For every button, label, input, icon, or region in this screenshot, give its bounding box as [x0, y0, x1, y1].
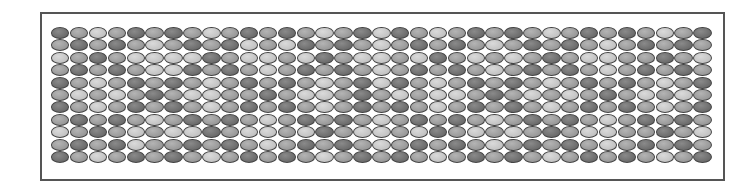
ellipse-cell: [259, 139, 277, 151]
ellipse-cell: [221, 126, 239, 138]
ellipse-cell: [127, 77, 145, 89]
ellipse-cell: [334, 77, 352, 89]
ellipse-cell: [674, 77, 692, 89]
ellipse-cell: [429, 64, 447, 76]
ellipse-cell: [599, 114, 617, 126]
ellipse-cell: [656, 27, 674, 39]
ellipse-cell: [580, 126, 598, 138]
ellipse-cell: [542, 114, 560, 126]
ellipse-cell: [504, 151, 522, 163]
ellipse-cell: [485, 151, 503, 163]
ellipse-cell: [145, 64, 163, 76]
ellipse-cell: [561, 64, 579, 76]
ellipse-cell: [51, 77, 69, 89]
ellipse-cell: [297, 101, 315, 113]
ellipse-cell: [145, 52, 163, 64]
ellipse-cell: [580, 27, 598, 39]
ellipse-cell: [674, 52, 692, 64]
ellipse-cell: [127, 151, 145, 163]
ellipse-cell: [164, 114, 182, 126]
ellipse-cell: [183, 114, 201, 126]
ellipse-cell: [240, 27, 258, 39]
ellipse-cell: [656, 139, 674, 151]
ellipse-cell: [448, 39, 466, 51]
ellipse-cell: [580, 64, 598, 76]
ellipse-cell: [353, 27, 371, 39]
ellipse-cell: [240, 39, 258, 51]
ellipse-cell: [334, 126, 352, 138]
ellipse-cell: [164, 27, 182, 39]
ellipse-cell: [202, 151, 220, 163]
ellipse-cell: [334, 27, 352, 39]
ellipse-cell: [259, 151, 277, 163]
ellipse-cell: [410, 77, 428, 89]
ellipse-cell: [297, 77, 315, 89]
ellipse-cell: [448, 64, 466, 76]
ellipse-cell: [259, 27, 277, 39]
ellipse-cell: [89, 27, 107, 39]
ellipse-cell: [599, 77, 617, 89]
ellipse-cell: [410, 101, 428, 113]
ellipse-cell: [542, 126, 560, 138]
ellipse-cell: [315, 151, 333, 163]
ellipse-cell: [353, 52, 371, 64]
ellipse-cell: [108, 52, 126, 64]
ellipse-cell: [637, 77, 655, 89]
ellipse-cell: [467, 77, 485, 89]
ellipse-cell: [580, 77, 598, 89]
ellipse-cell: [240, 89, 258, 101]
ellipse-cell: [297, 126, 315, 138]
ellipse-cell: [429, 151, 447, 163]
ellipse-cell: [637, 39, 655, 51]
ellipse-cell: [561, 39, 579, 51]
ellipse-cell: [221, 139, 239, 151]
ellipse-cell: [448, 126, 466, 138]
ellipse-cell: [183, 139, 201, 151]
ellipse-cell: [297, 52, 315, 64]
ellipse-cell: [637, 151, 655, 163]
ellipse-cell: [145, 114, 163, 126]
ellipse-cell: [599, 52, 617, 64]
ellipse-cell: [164, 89, 182, 101]
ellipse-cell: [448, 27, 466, 39]
ellipse-cell: [523, 39, 541, 51]
ellipse-cell: [372, 126, 390, 138]
ellipse-cell: [240, 126, 258, 138]
ellipse-cell: [278, 64, 296, 76]
ellipse-cell: [637, 89, 655, 101]
ellipse-cell: [637, 64, 655, 76]
ellipse-cell: [315, 52, 333, 64]
ellipse-cell: [656, 126, 674, 138]
ellipse-cell: [429, 39, 447, 51]
ellipse-cell: [108, 139, 126, 151]
ellipse-cell: [145, 101, 163, 113]
ellipse-cell: [637, 114, 655, 126]
ellipse-cell: [202, 27, 220, 39]
ellipse-cell: [70, 114, 88, 126]
ellipse-cell: [504, 139, 522, 151]
ellipse-cell: [485, 52, 503, 64]
ellipse-cell: [485, 139, 503, 151]
ellipse-cell: [485, 126, 503, 138]
ellipse-cell: [429, 77, 447, 89]
ellipse-cell: [391, 77, 409, 89]
ellipse-cell: [674, 151, 692, 163]
ellipse-cell: [183, 27, 201, 39]
ellipse-cell: [51, 101, 69, 113]
ellipse-cell: [618, 52, 636, 64]
ellipse-cell: [599, 89, 617, 101]
ellipse-cell: [372, 151, 390, 163]
ellipse-cell: [372, 114, 390, 126]
ellipse-cell: [523, 77, 541, 89]
ellipse-cell: [145, 126, 163, 138]
ellipse-cell: [410, 114, 428, 126]
ellipse-cell: [221, 151, 239, 163]
ellipse-cell: [89, 77, 107, 89]
ellipse-cell: [315, 77, 333, 89]
ellipse-cell: [108, 101, 126, 113]
ellipse-cell: [202, 139, 220, 151]
ellipse-cell: [485, 77, 503, 89]
ellipse-cell: [372, 52, 390, 64]
ellipse-cell: [202, 89, 220, 101]
ellipse-cell: [164, 151, 182, 163]
